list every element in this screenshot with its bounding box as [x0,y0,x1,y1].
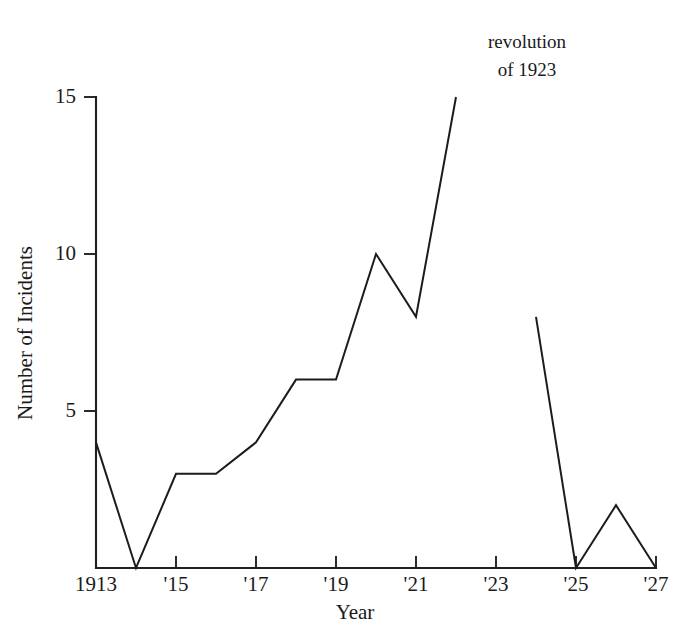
annotation-line-1: revolution [488,31,567,52]
data-line-segment-2 [536,317,656,568]
data-line-segment-1 [96,97,456,568]
annotation-line-2: of 1923 [498,59,557,80]
x-axis-title: Year [336,600,375,624]
x-tick-label-1921: '21 [404,572,429,596]
x-tick-label-1925: '25 [564,572,589,596]
chart-figure: 15 10 5 1913 '15 '17 '19 '21 '23 '25 '27… [0,0,683,638]
x-tick-label-1923: '23 [484,572,509,596]
y-tick-label-10: 10 [55,241,76,265]
x-tick-label-1915: '15 [164,572,189,596]
revolution-annotation: revolution of 1923 [488,31,567,80]
x-tick-label-1919: '19 [324,572,349,596]
x-tick-label-1927: '27 [644,572,669,596]
y-tick-label-15: 15 [55,84,76,108]
y-tick-label-5: 5 [66,398,77,422]
x-tick-label-1917: '17 [244,572,269,596]
line-chart-svg: 15 10 5 1913 '15 '17 '19 '21 '23 '25 '27… [0,0,683,638]
y-axis-title: Number of Incidents [13,246,37,420]
data-series-group [96,97,656,568]
x-tick-label-1913: 1913 [75,572,117,596]
